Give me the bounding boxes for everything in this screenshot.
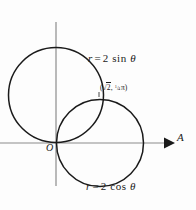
fraction-numerator: 1 [115, 84, 117, 89]
sine-label-relation: = [93, 52, 103, 64]
point-fraction: 1/4 [115, 85, 121, 92]
polar-axis-arrowhead [164, 138, 175, 149]
sine-label-coefficient: 2 [103, 52, 109, 64]
sine-label-angle: θ [130, 52, 136, 64]
cosine-label-function: cos [110, 180, 126, 192]
point-close-paren: ) [125, 83, 128, 92]
point-radical: √2 [103, 83, 111, 91]
cosine-label-angle: θ [130, 180, 136, 192]
curves-group [9, 48, 144, 187]
polar-axis-label: A [177, 132, 184, 143]
sine-label-function: sin [112, 52, 127, 64]
origin-label: O [46, 143, 53, 153]
polar-figure: r=2 sin θ r=2 cos θ (√2, 1/4π) O A [0, 0, 196, 210]
cosine-circle-label: r=2 cos θ [86, 181, 136, 192]
cosine-label-relation: = [91, 180, 101, 192]
sine-circle-label: r=2 sin θ [88, 53, 136, 64]
radicand: 2 [106, 82, 110, 92]
cosine-label-coefficient: 2 [101, 180, 107, 192]
intersection-point-label: (√2, 1/4π) [100, 83, 127, 91]
fraction-denominator: 4 [118, 86, 120, 91]
figure-canvas [0, 0, 196, 210]
axes-group [0, 22, 175, 186]
